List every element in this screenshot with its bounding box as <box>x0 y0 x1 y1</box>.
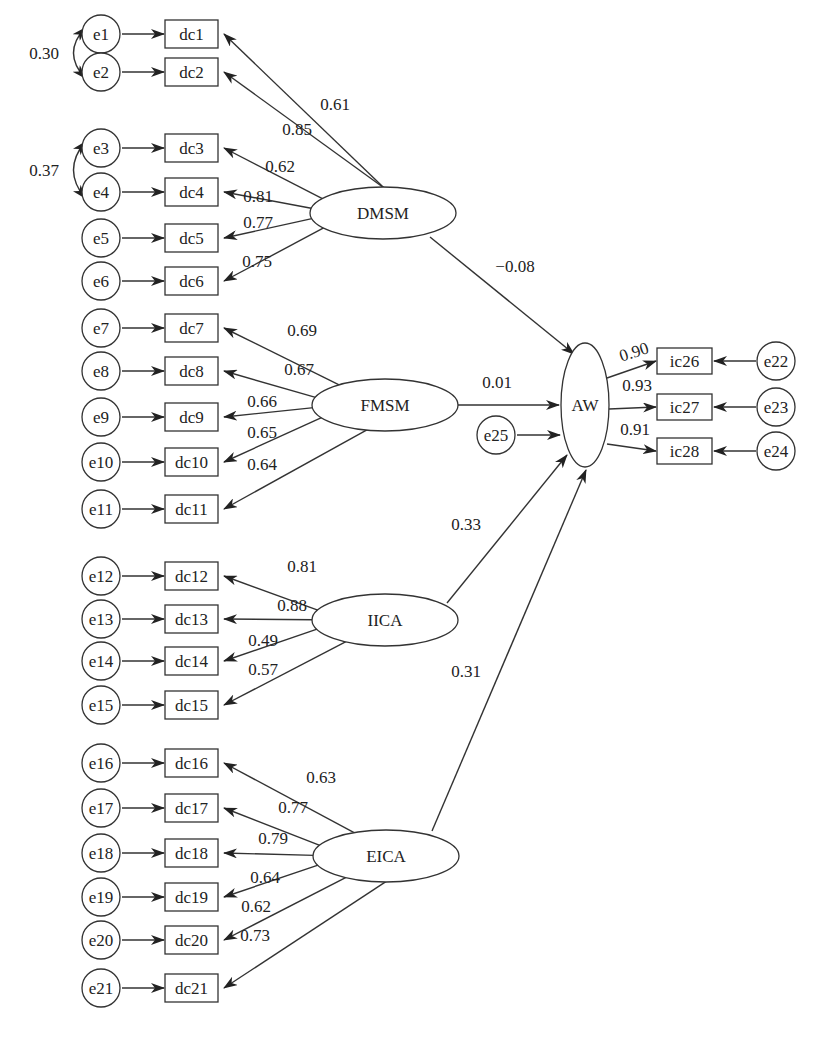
loading-arrow <box>224 428 371 509</box>
path-coefficient: −0.08 <box>495 257 534 276</box>
indicator-label: dc15 <box>175 696 208 715</box>
indicator-label: dc4 <box>179 183 204 202</box>
sem-path-diagram: DMSMFMSMIICAEICAAWe1dc10.61e2dc20.85e3dc… <box>0 0 824 1041</box>
latent-label: DMSM <box>357 204 409 223</box>
loading-coefficient: 0.66 <box>247 392 277 411</box>
loading-arrow <box>224 34 384 188</box>
error-label: e10 <box>89 453 114 472</box>
loading-arrow <box>224 328 346 388</box>
indicator-label: dc17 <box>175 799 209 818</box>
error-label: e5 <box>93 229 109 248</box>
loading-coefficient: 0.64 <box>250 868 280 887</box>
error-label: e15 <box>89 696 114 715</box>
loading-coefficient: 0.90 <box>617 338 651 365</box>
error-label: e21 <box>89 979 114 998</box>
covariance-value: 0.37 <box>29 161 59 180</box>
path-coefficient: 0.01 <box>482 373 512 392</box>
loading-coefficient: 0.69 <box>287 321 317 340</box>
loading-coefficient: 0.67 <box>284 360 314 379</box>
indicator-label: dc5 <box>179 229 204 248</box>
indicator-label: dc20 <box>175 931 208 950</box>
loading-coefficient: 0.49 <box>248 631 278 650</box>
covariance-value: 0.30 <box>29 44 59 63</box>
latent-label: EICA <box>366 847 406 866</box>
indicator-label: dc6 <box>179 272 204 291</box>
loading-coefficient: 0.62 <box>241 897 271 916</box>
indicator-label: dc2 <box>179 63 204 82</box>
loading-coefficient: 0.93 <box>622 376 652 395</box>
error-label: e22 <box>764 352 789 371</box>
indicator-label: dc7 <box>179 319 204 338</box>
error-label: e6 <box>93 272 109 291</box>
error-label: e2 <box>93 63 109 82</box>
error-label: e16 <box>89 754 114 773</box>
error-label: e13 <box>89 610 114 629</box>
error-label: e19 <box>89 888 114 907</box>
indicator-label: dc12 <box>175 567 208 586</box>
loading-coefficient: 0.57 <box>248 660 278 679</box>
loading-coefficient: 0.65 <box>247 423 277 442</box>
loading-coefficient: 0.88 <box>277 596 307 615</box>
loading-arrow <box>224 638 352 705</box>
latent-label: FMSM <box>360 396 409 415</box>
error-label: e7 <box>93 319 110 338</box>
indicator-label: dc1 <box>179 25 204 44</box>
loading-arrow <box>224 619 313 620</box>
error-label: e3 <box>93 139 109 158</box>
loading-coefficient: 0.73 <box>240 926 270 945</box>
error-label: e11 <box>89 500 113 519</box>
error-label: e20 <box>89 931 114 950</box>
latent-label: IICA <box>368 611 404 630</box>
loading-arrow <box>224 853 314 855</box>
error-label: e4 <box>93 183 110 202</box>
path-coefficient: 0.31 <box>451 662 481 681</box>
loading-coefficient: 0.85 <box>282 120 312 139</box>
loading-coefficient: 0.77 <box>278 798 308 817</box>
indicator-label: dc21 <box>175 979 208 998</box>
loading-coefficient: 0.81 <box>243 187 273 206</box>
loading-arrow <box>224 228 324 281</box>
path-coefficient: 0.33 <box>451 515 481 534</box>
loading-coefficient: 0.62 <box>265 157 295 176</box>
indicator-label: dc19 <box>175 888 208 907</box>
indicator-label: ic26 <box>670 352 699 371</box>
latent-label: AW <box>572 396 600 415</box>
indicator-label: dc14 <box>175 652 209 671</box>
indicator-label: dc18 <box>175 844 208 863</box>
error-label: e1 <box>93 25 109 44</box>
indicator-label: dc3 <box>179 139 204 158</box>
error-label: e18 <box>89 844 114 863</box>
loading-coefficient: 0.63 <box>306 768 336 787</box>
loading-coefficient: 0.61 <box>320 95 350 114</box>
indicator-label: dc11 <box>175 500 207 519</box>
loading-coefficient: 0.64 <box>247 455 277 474</box>
structural-path-dmsm <box>430 237 574 354</box>
error-label: e12 <box>89 567 114 586</box>
error-label: e17 <box>89 799 114 818</box>
indicator-label: dc13 <box>175 610 208 629</box>
outcome-loading-arrow <box>609 407 656 409</box>
loading-coefficient: 0.81 <box>287 557 317 576</box>
error-label: e8 <box>93 362 109 381</box>
indicator-label: dc8 <box>179 362 204 381</box>
error-label: e14 <box>89 652 114 671</box>
error-label: e24 <box>764 442 789 461</box>
outcome-loading-arrow <box>607 444 656 451</box>
indicator-label: dc10 <box>175 453 208 472</box>
loading-coefficient: 0.79 <box>258 829 288 848</box>
disturbance-label: e25 <box>484 426 509 445</box>
loading-coefficient: 0.75 <box>242 252 272 271</box>
indicator-label: ic27 <box>670 398 700 417</box>
error-label: e23 <box>764 398 789 417</box>
indicator-label: dc16 <box>175 754 208 773</box>
indicator-label: ic28 <box>670 442 699 461</box>
loading-coefficient: 0.91 <box>620 420 650 439</box>
error-label: e9 <box>93 408 109 427</box>
loading-coefficient: 0.77 <box>243 213 273 232</box>
indicator-label: dc9 <box>179 408 204 427</box>
